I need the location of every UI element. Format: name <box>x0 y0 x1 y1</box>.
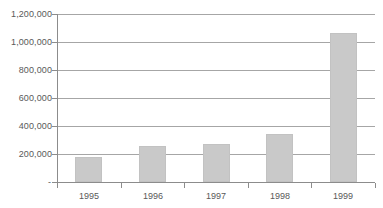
bar-1999 <box>330 33 357 182</box>
y-axis-tick-label: 400,000 <box>0 122 52 131</box>
y-axis-tick-label: 1,200,000 <box>0 10 52 19</box>
bar-series <box>57 14 375 182</box>
x-axis-tick <box>184 183 185 188</box>
y-axis-tick-label: 1,000,000 <box>0 38 52 47</box>
x-axis-labels: 1995 1996 1997 1998 1999 <box>57 190 375 206</box>
y-axis-tick-label: 800,000 <box>0 66 52 75</box>
y-axis-tick-label: 200,000 <box>0 150 52 159</box>
x-axis-tick-label: 1995 <box>57 190 121 202</box>
y-axis-tick-label: - <box>0 178 52 187</box>
x-axis-tick-label: 1998 <box>248 190 312 202</box>
x-axis-tick <box>121 183 122 188</box>
x-axis-tick <box>248 183 249 188</box>
bar-1998 <box>266 134 293 182</box>
x-axis-tick-label: 1997 <box>184 190 248 202</box>
bar-1997 <box>203 144 230 182</box>
bar-chart: 1,200,000 1,000,000 800,000 600,000 400,… <box>0 0 383 208</box>
x-axis-tick <box>375 183 376 188</box>
bar-1995 <box>75 157 102 182</box>
x-axis-tick-label: 1996 <box>121 190 185 202</box>
y-axis-tick-label: 600,000 <box>0 94 52 103</box>
x-axis-tick <box>311 183 312 188</box>
x-axis-line <box>57 182 375 183</box>
bar-1996 <box>139 146 166 182</box>
x-axis-tick-label: 1999 <box>311 190 375 202</box>
y-axis-labels: 1,200,000 1,000,000 800,000 600,000 400,… <box>0 0 52 208</box>
x-axis-tick <box>57 183 58 188</box>
